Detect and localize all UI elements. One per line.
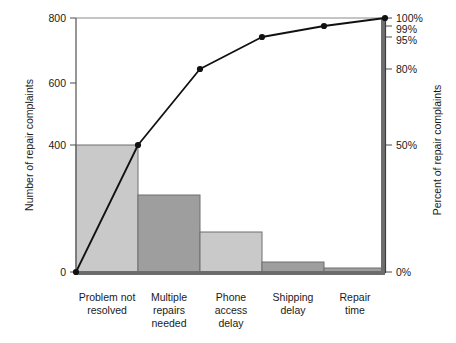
category-label-shipping-delay: Shipping delay — [273, 291, 314, 316]
category-label-multiple-repairs-needed: Multiple repairs needed — [151, 291, 187, 329]
marker-100-percent[interactable] — [382, 15, 388, 21]
bar-shipping-delay[interactable] — [262, 262, 324, 272]
cat-line: Shipping — [273, 291, 314, 303]
category-label-repair-time: Repair time — [340, 291, 371, 316]
chart-canvas: 800 600 400 0 100% 99% 95% 80% 50% 0% — [0, 0, 456, 343]
ytick-label-0: 0 — [60, 266, 66, 278]
bar-phone-access-delay[interactable] — [200, 232, 262, 272]
pareto-chart: 800 600 400 0 100% 99% 95% 80% 50% 0% — [0, 0, 456, 343]
y2-axis-title: Percent of repair complaints — [431, 85, 443, 216]
y2tick-label-95: 95% — [396, 34, 417, 46]
cat-line: Phone — [216, 291, 247, 303]
cat-line: Multiple — [151, 291, 187, 303]
ytick-label-400: 400 — [48, 139, 66, 151]
cat-line: Repair — [340, 291, 371, 303]
cat-line: delay — [280, 304, 306, 316]
cat-line: repairs — [153, 304, 185, 316]
cat-line: time — [345, 304, 365, 316]
marker-80-percent[interactable] — [197, 66, 203, 72]
y2tick-label-50: 50% — [396, 139, 417, 151]
cat-line: needed — [151, 317, 186, 329]
cat-line: Problem not — [79, 291, 136, 303]
y2tick-label-0: 0% — [396, 266, 411, 278]
category-label-problem-not-resolved: Problem not resolved — [79, 291, 136, 316]
left-axis-ticks — [70, 18, 76, 272]
marker-origin[interactable] — [73, 269, 79, 275]
ytick-label-800: 800 — [48, 12, 66, 24]
y-axis-title: Number of repair complaints — [23, 79, 35, 211]
y2tick-label-80: 80% — [396, 63, 417, 75]
cat-line: access — [215, 304, 248, 316]
marker-95-percent[interactable] — [259, 34, 265, 40]
cat-line: delay — [218, 317, 244, 329]
marker-99-percent[interactable] — [321, 23, 327, 29]
category-label-phone-access-delay: Phone access delay — [215, 291, 248, 329]
right-axis-ticks — [386, 18, 392, 272]
ytick-label-600: 600 — [48, 77, 66, 89]
marker-50-percent[interactable] — [135, 142, 141, 148]
cat-line: resolved — [87, 304, 127, 316]
bar-multiple-repairs-needed[interactable] — [138, 195, 200, 272]
